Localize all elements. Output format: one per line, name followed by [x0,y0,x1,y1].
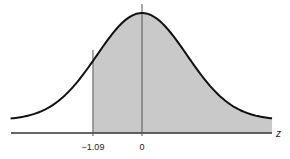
normal-distribution-chart: z −1.09 0 [0,0,290,159]
z-axis-label: z [275,128,281,139]
tick-label-neg-1-09: −1.09 [82,142,105,152]
tick-label-zero: 0 [139,142,144,152]
shaded-area-right-of-neg-1-09 [93,13,272,133]
